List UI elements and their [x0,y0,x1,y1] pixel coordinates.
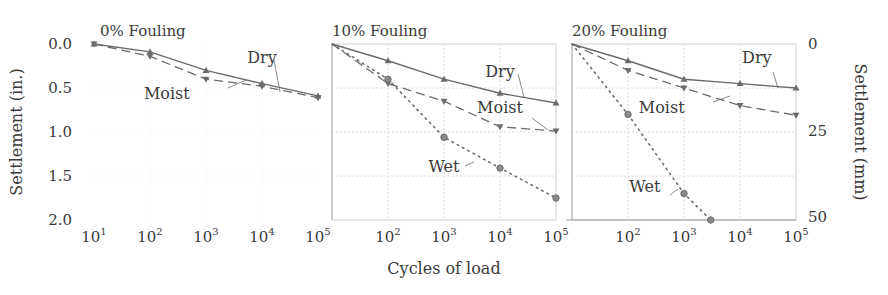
triangle-down-marker-icon [737,103,744,109]
x-tick-label: 101 [81,226,106,246]
x-tick-label: 103 [193,226,218,246]
y-tick-label-left: 0.5 [48,79,72,97]
x-tick-label: 105 [783,226,808,246]
leader-line [518,74,524,97]
leader-line [532,118,548,130]
x-tick-label: 102 [137,226,162,246]
x-tick-label: 103 [671,226,696,246]
chart-canvas: 0% Fouling101102103104105DryMoist10% Fou… [0,0,888,295]
x-tick-label: 104 [249,226,274,246]
y-tick-label-right: 0 [808,35,818,53]
panel-title: 10% Fouling [332,22,428,40]
y-tick-label-left: 0.0 [48,35,72,53]
y-axis-title-right: Settlement (mm) [851,63,870,200]
leader-line [713,96,730,102]
panel-title: 0% Fouling [100,22,186,40]
circle-marker-icon [385,76,391,82]
x-tick-label: 105 [305,226,330,246]
panel-title: 20% Fouling [572,22,668,40]
series-label-dry: Dry [485,62,515,81]
circle-marker-icon [497,165,503,171]
x-tick-label: 104 [487,226,512,246]
x-tick-label: 105 [543,226,568,246]
y-tick-label-left: 1.5 [48,167,72,185]
y-tick-label-left: 2.0 [48,211,72,229]
triangle-down-marker-icon [497,124,504,130]
series-label-moist: Moist [639,98,685,117]
circle-marker-icon [708,217,714,223]
triangle-down-marker-icon [793,113,800,119]
x-tick-label: 102 [615,226,640,246]
series-label-wet: Wet [428,157,460,176]
circle-marker-icon [441,134,447,140]
x-tick-label: 104 [727,226,752,246]
x-axis-title: Cycles of load [387,259,500,278]
series-label-moist: Moist [144,84,190,103]
panel-0-percent-fouling: 0% Fouling101102103104105DryMoist [81,22,330,246]
series-label-dry: Dry [247,48,277,67]
y-tick-label-left: 1.0 [48,123,72,141]
settlement-chart: 0% Fouling101102103104105DryMoist10% Fou… [0,0,888,295]
x-tick-label: 102 [375,226,400,246]
series-label-wet: Wet [629,177,661,196]
series-label-moist: Moist [477,98,523,117]
circle-marker-icon [625,111,631,117]
circle-marker-icon [553,195,559,201]
leader-line [670,189,678,195]
y-tick-label-right: 50 [808,208,827,226]
y-tick-label-right: 25 [808,122,827,140]
x-tick-label: 103 [431,226,456,246]
circle-marker-icon [681,190,687,196]
panel-20-percent-fouling: 20% Fouling102103104105DryMoistWet [566,22,809,246]
panel-10-percent-fouling: 10% Fouling102103104105DryMoistWet [332,22,569,246]
leader-line [465,162,474,166]
y-axis-title-left: Settlement (in.) [7,68,26,195]
series-label-dry: Dry [742,48,772,67]
